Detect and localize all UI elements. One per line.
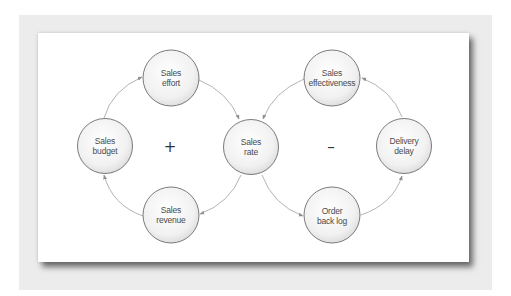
label-sales-effort: Sales effort	[141, 68, 201, 88]
label-sales-effectiveness: Sales effectiveness	[302, 68, 362, 88]
label-line: delay	[374, 146, 434, 156]
label-order-back-log: Order back log	[302, 206, 362, 226]
label-line: Sales	[141, 205, 201, 215]
edge-rate-to-revenue	[200, 175, 241, 214]
edge-revenue-to-budget	[104, 175, 143, 216]
label-line: Order	[302, 206, 362, 216]
label-sales-budget: Sales budget	[75, 136, 135, 156]
label-delivery-delay: Delivery delay	[374, 136, 434, 156]
label-line: back log	[302, 216, 362, 226]
label-line: Sales	[141, 68, 201, 78]
label-line: Sales	[75, 136, 135, 146]
label-sales-revenue: Sales revenue	[141, 205, 201, 225]
edge-effectiveness-to-rate	[263, 79, 304, 119]
balancing-loop-minus-icon: –	[321, 139, 341, 155]
edge-rate-to-orders	[262, 175, 303, 216]
edge-delay-to-effectiveness	[362, 78, 402, 117]
reinforcing-loop-plus-icon: +	[160, 139, 180, 155]
label-line: Sales	[221, 137, 281, 147]
label-line: revenue	[141, 215, 201, 225]
edge-effort-to-rate	[199, 80, 239, 119]
label-sales-rate: Sales rate	[221, 137, 281, 157]
diagram-stage: Sales effort Sales budget Sales rate Sal…	[0, 0, 511, 296]
label-line: Delivery	[374, 136, 434, 146]
edge-orders-to-delay	[361, 176, 402, 215]
edge-budget-to-effort	[104, 77, 142, 118]
label-line: effort	[141, 78, 201, 88]
label-line: Sales	[302, 68, 362, 78]
label-line: effectiveness	[302, 78, 362, 88]
label-line: budget	[75, 146, 135, 156]
label-line: rate	[221, 147, 281, 157]
